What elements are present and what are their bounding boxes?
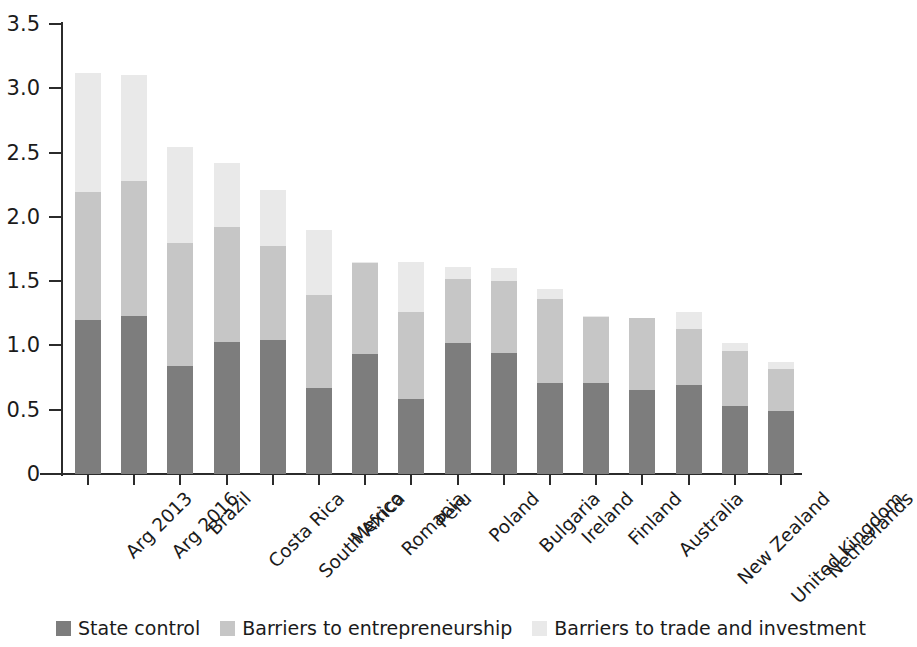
bar-segment xyxy=(398,312,424,399)
bar-segment xyxy=(583,383,609,474)
x-axis-tick xyxy=(179,474,181,485)
y-axis-tick-label: 2.0 xyxy=(7,206,49,227)
y-axis-tick-label: 3.0 xyxy=(7,78,49,99)
y-axis-tick: 1.5 xyxy=(49,280,61,282)
bar-segment xyxy=(167,147,193,242)
bar-stack[interactable] xyxy=(306,230,332,474)
x-axis-label: Brazil xyxy=(206,489,256,539)
legend-label: Barriers to entrepreneurship xyxy=(242,619,512,638)
bar-stack[interactable] xyxy=(676,312,702,474)
y-axis-tick: 1.0 xyxy=(49,344,61,346)
bar-segment xyxy=(214,342,240,474)
bar-stack[interactable] xyxy=(214,163,240,474)
y-axis-tick: 0 xyxy=(49,473,61,475)
bar-stack[interactable] xyxy=(260,190,286,474)
bar-stack[interactable] xyxy=(167,147,193,474)
bar-segment xyxy=(306,388,332,474)
bar-stack[interactable] xyxy=(583,316,609,474)
x-axis-tick xyxy=(641,474,643,485)
bar-stack[interactable] xyxy=(768,362,794,474)
x-axis-tick xyxy=(503,474,505,485)
bar-segment xyxy=(121,181,147,316)
bar-segment xyxy=(491,353,517,474)
bar-stack[interactable] xyxy=(491,268,517,474)
y-axis-tick: 2.0 xyxy=(49,216,61,218)
bar-segment xyxy=(491,281,517,353)
bar-segment xyxy=(768,369,794,411)
bar-segment xyxy=(260,190,286,247)
bar-segment xyxy=(445,267,471,279)
legend-swatch-icon xyxy=(56,621,71,636)
bar-segment xyxy=(676,385,702,474)
bar-stack[interactable] xyxy=(445,267,471,474)
x-axis-label: Netherlands xyxy=(824,489,917,582)
bar-segment xyxy=(75,73,101,193)
bar-segment xyxy=(398,399,424,474)
bar-segment xyxy=(537,383,563,474)
bar-segment xyxy=(306,295,332,388)
x-axis-label-text: Poland xyxy=(486,489,543,546)
legend-item[interactable]: Barriers to entrepreneurship xyxy=(220,619,512,638)
legend-swatch-icon xyxy=(220,621,235,636)
bar-segment xyxy=(445,279,471,343)
bar-stack[interactable] xyxy=(352,262,378,474)
y-axis-tick: 3.0 xyxy=(49,87,61,89)
x-axis-label-text: Finland xyxy=(626,489,686,549)
legend-label: State control xyxy=(78,619,200,638)
x-axis-label-text: Peru xyxy=(433,489,475,531)
bar-segment xyxy=(491,268,517,281)
bar-segment xyxy=(352,263,378,354)
y-axis-tick: 0.5 xyxy=(49,409,61,411)
x-axis-tick xyxy=(364,474,366,485)
bar-segment xyxy=(445,343,471,474)
x-axis-label: Australia xyxy=(676,489,747,560)
y-axis-tick-label: 0 xyxy=(27,464,49,485)
bar-segment xyxy=(676,329,702,386)
y-axis-tick-label: 1.5 xyxy=(7,271,49,292)
x-axis-label-text: Brazil xyxy=(206,489,256,539)
x-axis-tick xyxy=(549,474,551,485)
bar-segment xyxy=(214,227,240,341)
x-axis-label-text: Australia xyxy=(676,489,747,560)
y-axis-tick-label: 1.0 xyxy=(7,335,49,356)
bar-segment xyxy=(167,243,193,366)
bar-stack[interactable] xyxy=(121,75,147,474)
legend-item[interactable]: Barriers to trade and investment xyxy=(532,619,866,638)
bar-segment xyxy=(537,299,563,383)
bar-segment xyxy=(629,390,655,474)
bar-stack[interactable] xyxy=(537,289,563,474)
chart-legend: State controlBarriers to entrepreneurshi… xyxy=(56,619,878,638)
bar-stack[interactable] xyxy=(722,343,748,474)
x-axis-label: Peru xyxy=(433,489,475,531)
bar-segment xyxy=(121,316,147,474)
bar-segment xyxy=(722,406,748,474)
y-axis-tick: 3.5 xyxy=(49,23,61,25)
bar-segment xyxy=(722,351,748,406)
x-axis-tick xyxy=(595,474,597,485)
bar-segment xyxy=(352,354,378,474)
bar-segment xyxy=(214,163,240,227)
bar-segment xyxy=(629,318,655,390)
x-axis-tick xyxy=(410,474,412,485)
bar-stack[interactable] xyxy=(75,73,101,474)
x-axis-tick xyxy=(272,474,274,485)
bar-stack[interactable] xyxy=(629,318,655,474)
bar-stack[interactable] xyxy=(398,262,424,474)
bar-segment xyxy=(306,230,332,296)
bar-segment xyxy=(260,340,286,474)
y-axis-tick-label: 3.5 xyxy=(7,14,49,35)
x-axis-tick xyxy=(734,474,736,485)
x-axis-tick xyxy=(318,474,320,485)
x-axis-tick xyxy=(780,474,782,485)
legend-label: Barriers to trade and investment xyxy=(554,619,866,638)
bar-segment xyxy=(260,246,286,340)
plot-area xyxy=(62,24,802,474)
bar-segment xyxy=(75,192,101,319)
legend-item[interactable]: State control xyxy=(56,619,200,638)
x-axis-tick xyxy=(133,474,135,485)
y-axis-tick: 2.5 xyxy=(49,152,61,154)
bar-segment xyxy=(537,289,563,299)
bar-segment xyxy=(768,411,794,474)
x-axis-tick xyxy=(226,474,228,485)
